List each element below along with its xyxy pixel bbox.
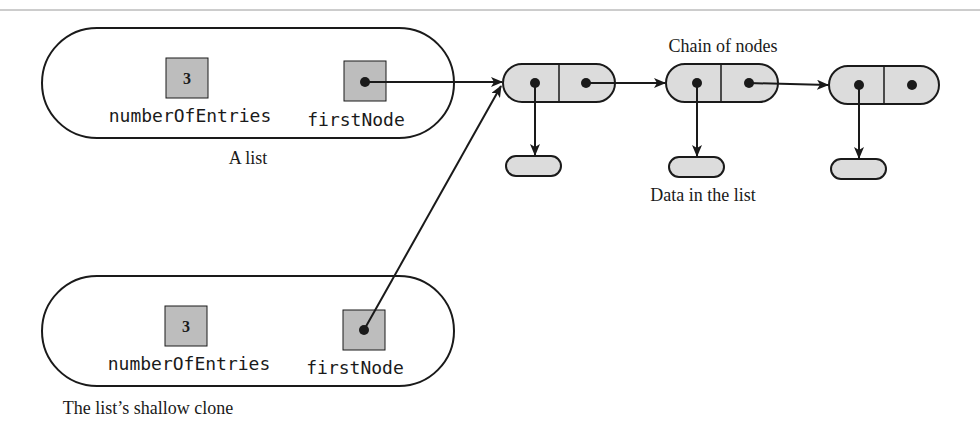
clone-firstnode-label: firstNode (306, 357, 404, 378)
clone-list: 3 numberOfEntries firstNode The list’s s… (42, 276, 454, 418)
data-item-1 (506, 156, 561, 176)
chain-caption: Chain of nodes (669, 36, 778, 56)
original-list: 3 numberOfEntries firstNode A list (42, 28, 454, 168)
data-caption: Data in the list (650, 185, 755, 205)
clone-count-label: numberOfEntries (108, 353, 271, 374)
chain-node-3 (829, 66, 939, 179)
original-count-value: 3 (183, 70, 191, 87)
data-item-2 (669, 157, 724, 177)
original-firstnode-label: firstNode (307, 109, 405, 130)
original-list-caption: A list (229, 148, 268, 168)
diagram-canvas: 3 numberOfEntries firstNode A list 3 num… (0, 0, 980, 431)
clone-count-value: 3 (182, 318, 190, 335)
original-count-label: numberOfEntries (109, 105, 272, 126)
clone-list-caption: The list’s shallow clone (63, 398, 233, 418)
node-3-next-null-icon (907, 80, 917, 90)
chain-node-2 (666, 64, 778, 177)
data-item-3 (831, 159, 886, 179)
chain-node-1 (503, 64, 615, 176)
